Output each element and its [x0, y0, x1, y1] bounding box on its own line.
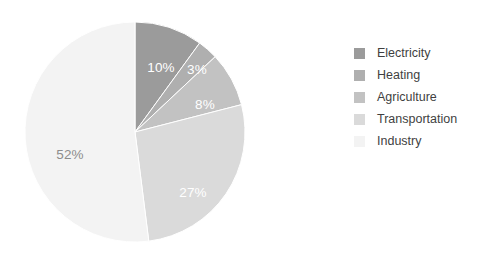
legend-item-label: Transportation [377, 112, 457, 126]
pie-slice-label-heating: 3% [187, 62, 207, 77]
pie-slice-label-electricity: 10% [147, 60, 175, 75]
pie-plot-area: 10%3%8%27%52% [0, 0, 280, 262]
legend-swatch-icon-electricity [354, 48, 365, 59]
legend-swatch-icon-industry [354, 136, 365, 147]
pie-slice-label-transportation: 27% [179, 185, 207, 200]
legend-item-agriculture[interactable]: Agriculture [354, 86, 496, 108]
pie-chart-figure: 10%3%8%27%52% ElectricityHeatingAgricult… [0, 0, 499, 262]
pie-slice-industry[interactable] [25, 22, 149, 242]
pie-slice-label-agriculture: 8% [195, 97, 215, 112]
legend-item-label: Electricity [377, 46, 430, 60]
legend-item-electricity[interactable]: Electricity [354, 42, 496, 64]
legend-item-label: Industry [377, 134, 421, 148]
chart-legend: ElectricityHeatingAgricultureTransportat… [354, 42, 496, 152]
pie-chart-svg: 10%3%8%27%52% [0, 0, 280, 262]
pie-slices-group [25, 22, 245, 242]
legend-swatch-icon-transportation [354, 114, 365, 125]
legend-item-label: Heating [377, 68, 420, 82]
pie-slice-label-industry: 52% [56, 147, 84, 162]
legend-item-heating[interactable]: Heating [354, 64, 496, 86]
legend-swatch-icon-agriculture [354, 92, 365, 103]
legend-item-industry[interactable]: Industry [354, 130, 496, 152]
legend-item-label: Agriculture [377, 90, 437, 104]
legend-swatch-icon-heating [354, 70, 365, 81]
legend-item-transportation[interactable]: Transportation [354, 108, 496, 130]
